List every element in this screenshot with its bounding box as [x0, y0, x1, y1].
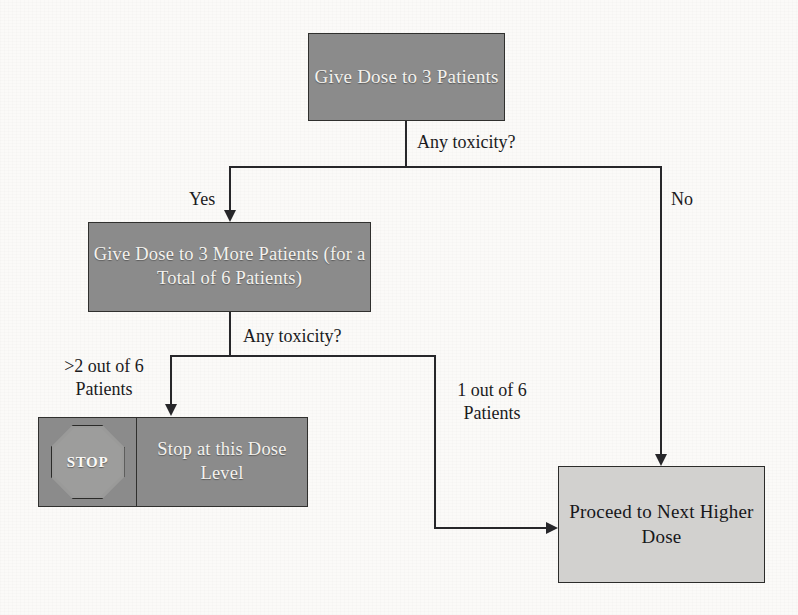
edge-toxicity2-split	[170, 355, 435, 357]
node-proceed-to-next-higher-dose-label: Proceed to Next Higher Dose	[559, 500, 764, 549]
edge-dose3-to-junction	[405, 121, 407, 167]
edge-label-1-of-6: 1 out of 6 Patients	[444, 379, 540, 424]
arrowhead-1of6-into-proceed	[546, 522, 558, 534]
node-stop-at-this-dose-level[interactable]: STOP Stop at this Dose Level	[38, 417, 308, 507]
edge-gt2of6-down	[170, 355, 172, 407]
node-proceed-to-next-higher-dose[interactable]: Proceed to Next Higher Dose	[558, 466, 765, 583]
edge-label-yes: Yes	[189, 188, 215, 211]
stop-sign-container: STOP	[39, 418, 137, 506]
arrowhead-into-stop	[165, 404, 177, 416]
node-give-dose-3-patients-label: Give Dose to 3 Patients	[314, 65, 498, 89]
edge-no-down	[660, 166, 662, 458]
edge-label-gt2-of-6: >2 out of 6 Patients	[48, 355, 160, 400]
node-give-dose-3-more-patients[interactable]: Give Dose to 3 More Patients (for a Tota…	[88, 222, 371, 312]
node-stop-at-this-dose-level-label: Stop at this Dose Level	[137, 438, 307, 485]
edge-toxicity1-split	[229, 166, 661, 168]
edge-label-no: No	[671, 188, 693, 211]
edge-label-any-toxicity-1: Any toxicity?	[417, 131, 515, 154]
edge-yes-down	[229, 166, 231, 214]
arrowhead-no-into-proceed	[655, 454, 667, 466]
node-give-dose-3-more-patients-label: Give Dose to 3 More Patients (for a Tota…	[89, 243, 370, 290]
node-stop-text-container: Stop at this Dose Level	[137, 418, 307, 506]
edge-label-any-toxicity-2: Any toxicity?	[243, 325, 341, 348]
flowchart-canvas: Any toxicity? Yes No Any toxicity? >2 ou…	[0, 0, 798, 615]
arrowhead-yes-into-dose3more	[224, 210, 236, 222]
edge-dose3more-to-junction2	[229, 312, 231, 356]
edge-1of6-down	[434, 355, 436, 528]
stop-sign-icon: STOP	[51, 425, 125, 499]
edge-1of6-right	[434, 527, 548, 529]
node-give-dose-3-patients[interactable]: Give Dose to 3 Patients	[308, 33, 505, 121]
stop-sign-text: STOP	[67, 454, 108, 471]
